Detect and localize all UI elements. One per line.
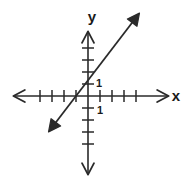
y-axis-group xyxy=(82,32,94,174)
coordinate-plane-svg: x y 1 1 xyxy=(0,0,196,182)
x-unit-label: 1 xyxy=(97,104,103,116)
x-axis-label: x xyxy=(172,87,181,104)
y-unit-label: 1 xyxy=(96,77,102,89)
y-axis-label: y xyxy=(88,8,97,25)
plotted-line-group xyxy=(50,15,138,130)
coordinate-plane-figure: x y 1 1 xyxy=(0,0,196,182)
x-axis-group xyxy=(14,90,168,102)
plotted-line xyxy=(50,15,138,130)
